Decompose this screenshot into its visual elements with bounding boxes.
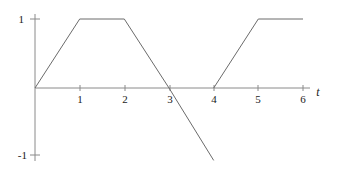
curve-segment-2 [214, 19, 303, 88]
x-tick-label-3: 3 [167, 93, 173, 105]
y-tick-label-1: 1 [19, 13, 25, 25]
x-tick-label-6: 6 [300, 93, 306, 105]
x-tick-label-2: 2 [122, 93, 128, 105]
curve-segment-1 [35, 19, 214, 160]
plot-figure: 1 -1 1 2 3 4 5 6 t [0, 0, 342, 176]
x-axis-variable-label: t [316, 85, 320, 99]
x-tick-label-4: 4 [211, 93, 217, 105]
x-tick-label-5: 5 [255, 93, 261, 105]
piecewise-function-plot: 1 -1 1 2 3 4 5 6 t [0, 0, 342, 176]
data-curves [35, 19, 303, 160]
y-tick-label-neg1: -1 [18, 149, 27, 161]
x-tick-label-1: 1 [77, 93, 83, 105]
axes-group [35, 14, 310, 161]
